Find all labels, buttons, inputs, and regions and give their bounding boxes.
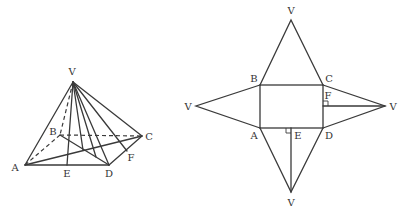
label-C: C bbox=[145, 131, 153, 142]
edge-VC bbox=[73, 82, 142, 136]
label-A: A bbox=[10, 162, 19, 173]
edge-VA bbox=[25, 82, 73, 165]
label-B: B bbox=[250, 73, 257, 84]
right-angle-mark-E bbox=[286, 128, 291, 133]
label-C: C bbox=[325, 73, 333, 84]
edge-BC-hidden bbox=[60, 135, 142, 136]
label-E: E bbox=[63, 168, 70, 179]
pyramid-figure: V A B C D E F bbox=[10, 66, 153, 179]
label-V-left: V bbox=[183, 101, 192, 112]
label-F: F bbox=[325, 90, 332, 101]
diagram-canvas: V A B C D E F V V V V B C A D E F bbox=[0, 0, 408, 215]
label-B: B bbox=[49, 126, 56, 137]
edge-VD bbox=[73, 82, 109, 165]
base-rectangle bbox=[260, 85, 323, 128]
face-left bbox=[196, 85, 260, 128]
pyramid-net: V V V V B C A D E F bbox=[183, 5, 397, 208]
label-V: V bbox=[67, 66, 76, 77]
label-V-bottom: V bbox=[286, 197, 295, 208]
label-F: F bbox=[128, 152, 135, 163]
slant-height-VE bbox=[67, 82, 73, 165]
label-A: A bbox=[249, 130, 258, 141]
label-E: E bbox=[294, 130, 301, 141]
label-D: D bbox=[105, 168, 113, 179]
label-D: D bbox=[325, 130, 333, 141]
face-top bbox=[260, 20, 323, 85]
right-angle-mark-F bbox=[323, 101, 328, 106]
label-V-right: V bbox=[388, 101, 397, 112]
label-V-top: V bbox=[286, 5, 295, 16]
